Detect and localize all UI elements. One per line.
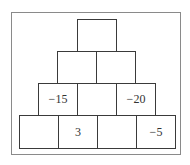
pyramid-cell-r2c2	[96, 51, 136, 84]
pyramid-cell-r4c3	[97, 115, 137, 149]
pyramid-cell-r2c1	[57, 51, 98, 84]
pyramid-cell-r4c2: 3	[58, 115, 98, 149]
pyramid-cell-r3c3: −20	[116, 83, 156, 116]
pyramid-cell-r4c1	[19, 115, 59, 149]
pyramid-cell-r3c2	[77, 83, 117, 116]
pyramid-cell-r4c4: −5	[136, 115, 176, 149]
pyramid-cell-r3c1: −15	[38, 83, 78, 116]
pyramid-cell-r1c1	[77, 19, 117, 52]
